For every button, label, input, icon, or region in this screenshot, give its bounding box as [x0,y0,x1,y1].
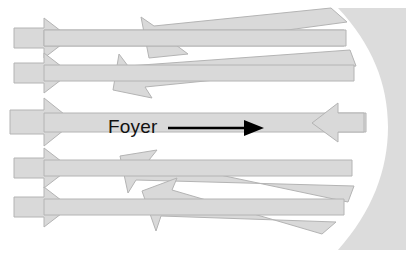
incoming-ray-1-bar [44,30,346,46]
incoming-ray-4-bar [44,160,352,176]
reflected-ray-axis [312,103,364,142]
ray-diagram-canvas: Foyer [0,0,406,253]
optics-ray-diagram: Foyer [0,0,406,253]
foyer-label: Foyer [108,116,158,137]
incoming-ray-2-bar [44,65,354,81]
incoming-ray-5-bar [44,199,344,215]
